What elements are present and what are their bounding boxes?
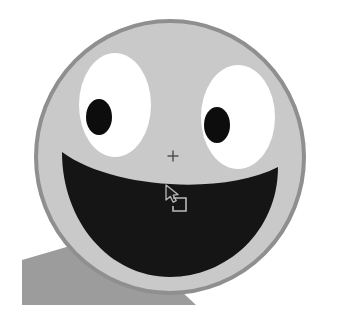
left-eye[interactable] bbox=[79, 53, 151, 157]
right-eye[interactable] bbox=[201, 65, 275, 169]
image-canvas[interactable]: Smiley Face Grayscale cartoon smiley fac… bbox=[0, 0, 337, 318]
smiley-face-artwork[interactable] bbox=[0, 0, 337, 318]
left-eye-pupil bbox=[86, 99, 112, 135]
right-eye-pupil bbox=[204, 107, 230, 143]
